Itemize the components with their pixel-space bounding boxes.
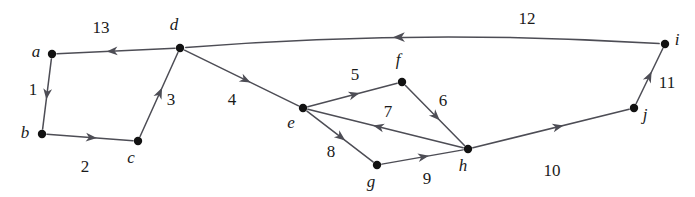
graph-canvas: abcdefghij 12345678910111213: [0, 0, 695, 197]
edge-weight-d-a: 13: [93, 18, 110, 37]
edge-d-a: [57, 48, 175, 54]
node-f[interactable]: [398, 78, 406, 86]
edge-weight-e-g: 8: [327, 142, 336, 161]
node-d[interactable]: [176, 44, 184, 52]
node-label-j: j: [641, 105, 648, 124]
node-label-g: g: [367, 172, 376, 191]
node-h[interactable]: [464, 145, 472, 153]
node-label-h: h: [459, 156, 468, 175]
edge-arrowhead: [334, 130, 345, 140]
node-labels-layer: abcdefghij: [21, 15, 680, 191]
edges-layer: [43, 37, 663, 164]
node-label-e: e: [287, 113, 295, 132]
edge-weight-b-c: 2: [81, 157, 90, 176]
edge-weight-g-h: 9: [423, 169, 432, 188]
edge-weight-a-b: 1: [29, 80, 38, 99]
node-label-c: c: [127, 148, 135, 167]
edge-weight-i-d: 12: [519, 9, 536, 28]
edge-weight-h-e: 7: [384, 102, 393, 121]
graph-figure: abcdefghij 12345678910111213: [0, 0, 695, 197]
node-label-i: i: [675, 30, 680, 49]
node-label-d: d: [170, 15, 179, 34]
node-i[interactable]: [661, 40, 669, 48]
node-a[interactable]: [48, 50, 56, 58]
edge-d-e: [184, 50, 298, 106]
edge-weight-h-j: 10: [544, 161, 561, 180]
edge-h-j: [473, 109, 629, 148]
node-b[interactable]: [38, 130, 46, 138]
edge-weight-d-e: 4: [228, 90, 237, 109]
node-j[interactable]: [630, 104, 638, 112]
edge-weight-f-h: 6: [439, 91, 448, 110]
edge-weight-j-i: 11: [659, 73, 675, 92]
edge-i-d: [186, 37, 659, 48]
node-c[interactable]: [134, 137, 142, 145]
edge-weight-e-f: 5: [351, 65, 360, 84]
node-label-a: a: [32, 42, 41, 61]
edge-weight-c-d: 3: [167, 90, 176, 109]
node-label-b: b: [21, 123, 30, 142]
node-label-f: f: [396, 50, 403, 69]
node-e[interactable]: [299, 104, 307, 112]
node-g[interactable]: [373, 161, 381, 169]
